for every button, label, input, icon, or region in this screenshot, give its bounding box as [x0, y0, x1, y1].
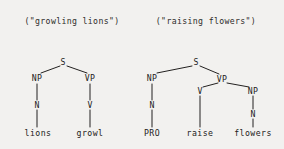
tree-edge — [67, 66, 87, 73]
tree-edge — [200, 66, 219, 74]
tree-node-vp: VP — [85, 73, 95, 83]
tree-edge — [157, 66, 192, 73]
tree-terminal-raise: raise — [187, 128, 214, 138]
tree-edge — [41, 66, 60, 73]
tree-node-s: S — [193, 57, 198, 67]
tree-caption: ("raising flowers") — [156, 16, 256, 26]
tree-edge — [227, 83, 249, 87]
tree-node-np: NP — [147, 73, 157, 83]
tree-node-vp: VP — [217, 74, 227, 84]
tree-node-v: V — [197, 86, 202, 96]
tree-caption: ("growling lions") — [24, 16, 119, 26]
tree-node-v: V — [87, 100, 92, 110]
tree-terminal-lions: lions — [25, 128, 52, 138]
tree-node-n: N — [34, 100, 39, 110]
tree-terminal-pro: PRO — [144, 128, 160, 138]
tree-node-n: N — [149, 100, 154, 110]
tree-node-np: NP — [248, 86, 258, 96]
tree-node-s: S — [60, 57, 65, 67]
tree-node-np: NP — [32, 73, 42, 83]
tree-terminal-growl: growl — [77, 128, 104, 138]
tree-edge — [203, 83, 218, 87]
tree-terminal-flowers: flowers — [234, 128, 272, 138]
tree-node-n: N — [250, 109, 255, 119]
syntax-tree-figure: ("growling lions")SNPVPNVlionsgrowl("rai… — [0, 0, 284, 149]
